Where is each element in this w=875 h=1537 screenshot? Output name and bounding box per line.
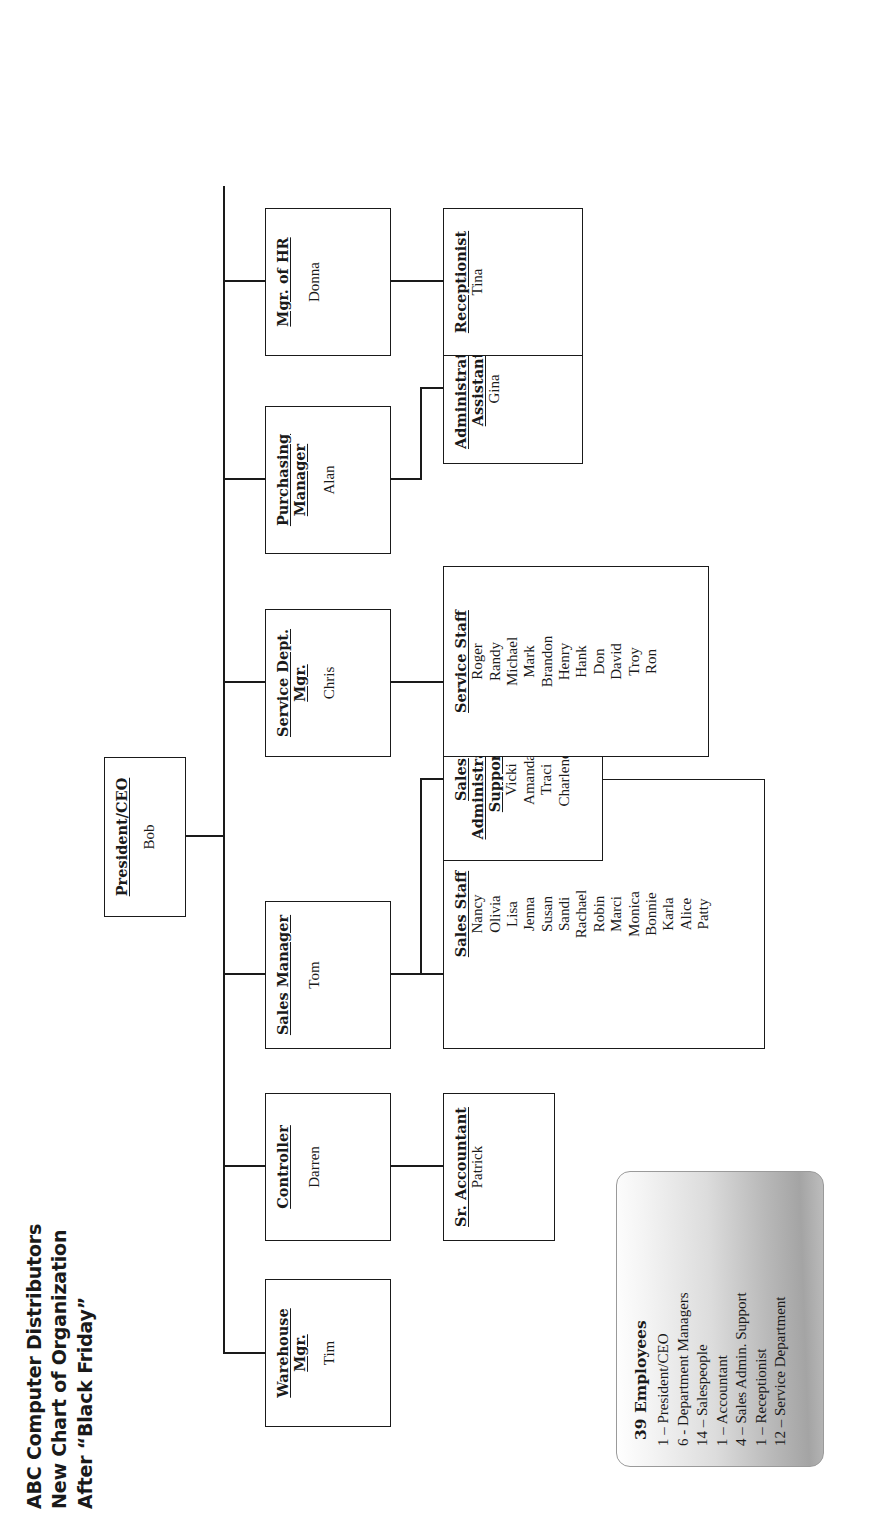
node-person-name: Alan: [320, 407, 338, 553]
list-item: Troy: [626, 567, 643, 756]
node-sr-accountant[interactable]: Sr. Accountant Patrick: [443, 1093, 555, 1241]
node-header: PurchasingManager: [274, 407, 308, 553]
connector-sales-bus: [420, 779, 422, 975]
node-person-name: Donna: [305, 209, 323, 355]
list-item: Patty: [695, 780, 712, 1048]
list-item: Hank: [573, 567, 590, 756]
connector-ceo-stub: [186, 836, 224, 838]
node-header: Controller: [274, 1094, 291, 1240]
connector-drop-hr: [223, 281, 265, 283]
node-mgr-of-hr[interactable]: Mgr. of HR Donna: [265, 208, 391, 356]
title-line-1: ABC Computer Distributors: [22, 1224, 47, 1509]
list-item: Marci: [608, 780, 625, 1048]
node-warehouse-mgr[interactable]: WarehouseMgr. Tim: [265, 1279, 391, 1427]
connector-drop-service: [223, 682, 265, 684]
list-item: Michael: [504, 567, 521, 756]
list-item: Tina: [469, 209, 486, 355]
node-receptionist[interactable]: Receptionist Tina: [443, 208, 583, 356]
connector-manager-spine: [223, 186, 225, 1354]
node-person-name: Tom: [305, 902, 323, 1048]
legend-row: 1 – Accountant: [713, 1192, 733, 1446]
node-header: Receptionist: [452, 209, 469, 355]
node-name-list: Tina: [469, 209, 486, 355]
node-person-name: Darren: [305, 1094, 323, 1240]
connector-drop-controller: [223, 1166, 265, 1168]
list-item: Bonnie: [643, 780, 660, 1048]
node-person-name: Bob: [140, 758, 158, 916]
node-service-dept-mgr[interactable]: Service Dept.Mgr. Chris: [265, 609, 391, 757]
connector-controller-to-accountant: [391, 1166, 443, 1168]
list-item: Randy: [487, 567, 504, 756]
node-header-line-1: Purchasing: [274, 434, 291, 526]
list-item: Brandon: [539, 567, 556, 756]
node-name-list: Patrick: [469, 1094, 486, 1240]
connector-drop-sales: [223, 974, 265, 976]
legend-row: 12 – Service Department: [771, 1192, 791, 1446]
node-header: President/CEO: [113, 758, 130, 916]
node-header-line-1: Warehouse: [274, 1308, 291, 1397]
node-header: Mgr. of HR: [274, 209, 291, 355]
connector-purchasing-drop: [391, 479, 421, 481]
list-item: Karla: [660, 780, 677, 1048]
node-header-line-2: Manager: [291, 407, 308, 553]
connector-sales-to-staff: [420, 974, 443, 976]
node-header: Sales Manager: [274, 902, 291, 1048]
legend-row: 6 - Department Managers: [674, 1192, 694, 1446]
node-header: Sr. Accountant: [452, 1094, 469, 1240]
node-president-ceo[interactable]: President/CEO Bob: [104, 757, 186, 917]
node-header-line-2: Mgr.: [291, 1280, 308, 1426]
node-header: WarehouseMgr.: [274, 1280, 308, 1426]
connector-hr-to-receptionist: [391, 281, 443, 283]
org-chart-sheet: ABC Computer Distributors New Chart of O…: [0, 0, 875, 1537]
list-item: Alice: [678, 780, 695, 1048]
node-header: Service Dept.Mgr.: [274, 610, 308, 756]
connector-sales-to-admin-support: [420, 779, 443, 781]
legend-row: 1 – President/CEO: [654, 1192, 674, 1446]
connector-purchasing-to-admin-assistant: [420, 388, 443, 390]
legend-row: 1 – Receptionist: [752, 1192, 772, 1446]
list-item: Don: [591, 567, 608, 756]
legend-row: 4 – Sales Admin. Support: [732, 1192, 752, 1446]
node-header-line-1: Sales: [452, 758, 469, 801]
employee-summary-legend: 39 Employees 1 – President/CEO 6 - Depar…: [616, 1171, 824, 1467]
page-title: ABC Computer Distributors New Chart of O…: [22, 1224, 98, 1509]
node-controller[interactable]: Controller Darren: [265, 1093, 391, 1241]
node-sales-manager[interactable]: Sales Manager Tom: [265, 901, 391, 1049]
node-purchasing-manager[interactable]: PurchasingManager Alan: [265, 406, 391, 554]
node-header-line-1: Service Dept.: [274, 629, 291, 737]
node-header: Service Staff: [452, 567, 469, 756]
page-rotation-wrapper: ABC Computer Distributors New Chart of O…: [0, 0, 875, 1537]
connector-sales-drop: [391, 974, 421, 976]
connector-drop-warehouse: [223, 1353, 265, 1355]
list-item: Roger: [469, 567, 486, 756]
list-item: David: [608, 567, 625, 756]
list-item: Monica: [626, 780, 643, 1048]
legend-title: 39 Employees: [631, 1192, 650, 1440]
title-line-2: New Chart of Organization: [47, 1224, 72, 1509]
title-line-3: After “Black Friday”: [73, 1224, 98, 1509]
list-item: Patrick: [469, 1094, 486, 1240]
list-item: Mark: [521, 567, 538, 756]
list-item: Henry: [556, 567, 573, 756]
node-person-name: Chris: [320, 610, 338, 756]
list-item: Ron: [643, 567, 660, 756]
legend-row: 14 – Salespeople: [693, 1192, 713, 1446]
connector-drop-purchasing: [223, 479, 265, 481]
node-service-staff[interactable]: Service Staff Roger Randy Michael Mark B…: [443, 566, 709, 757]
connector-service-to-staff: [391, 682, 443, 684]
node-name-list: Roger Randy Michael Mark Brandon Henry H…: [469, 567, 660, 756]
node-person-name: Tim: [320, 1280, 338, 1426]
node-header-line-2: Mgr.: [291, 610, 308, 756]
connector-purchasing-bus: [420, 388, 422, 480]
